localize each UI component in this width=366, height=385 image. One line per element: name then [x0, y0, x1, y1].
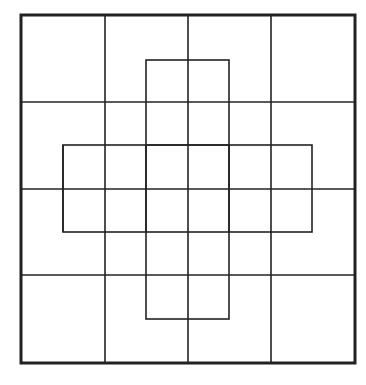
grid-cross-diagram: [0, 0, 366, 385]
